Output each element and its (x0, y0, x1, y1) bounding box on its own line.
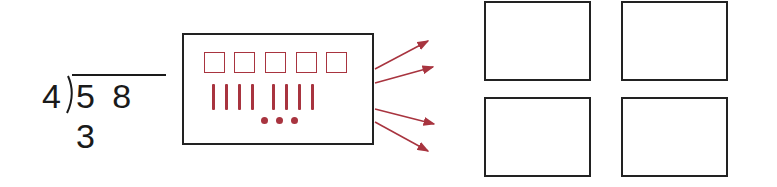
group-box-3 (484, 97, 591, 177)
arrow-icon (375, 67, 433, 83)
group-box-4 (621, 97, 728, 177)
group-box-1 (484, 1, 591, 81)
arrow-icon (375, 41, 428, 69)
arrow-icon (375, 122, 428, 151)
group-box-2 (621, 1, 728, 81)
arrow-icon (375, 109, 434, 124)
